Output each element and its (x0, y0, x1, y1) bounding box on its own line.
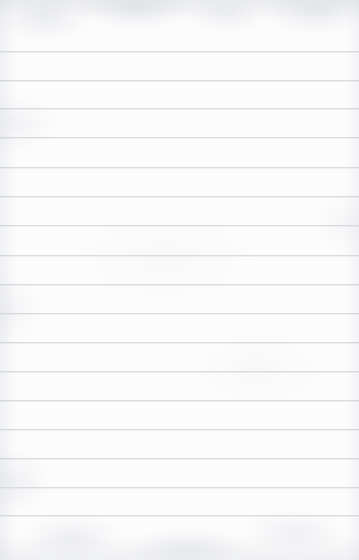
paper-background (0, 0, 359, 560)
lined-paper-page (0, 0, 359, 560)
